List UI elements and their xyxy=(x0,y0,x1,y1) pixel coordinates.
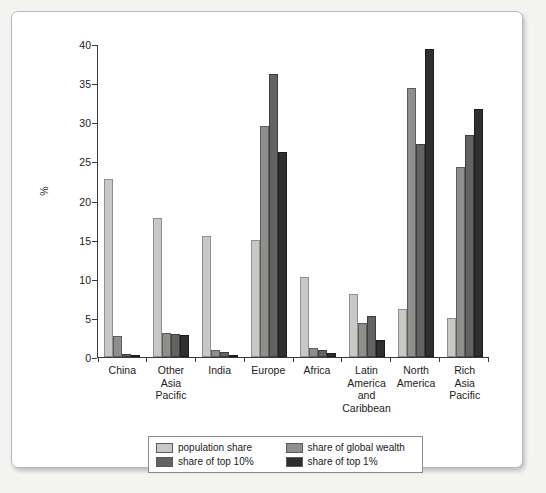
legend-label: share of top 10% xyxy=(178,456,254,467)
legend-swatch xyxy=(286,443,303,453)
x-axis-label: Other Asia Pacific xyxy=(147,364,196,426)
y-axis-tick-label: 5 xyxy=(51,313,91,325)
bar xyxy=(162,333,171,357)
bar-group xyxy=(147,45,196,357)
chart-page: % 0510152025303540 ChinaOther Asia Pacif… xyxy=(0,0,546,493)
x-axis-tick xyxy=(341,357,342,362)
bar xyxy=(367,316,376,357)
x-axis-labels: ChinaOther Asia PacificIndiaEuropeAfrica… xyxy=(98,364,489,426)
x-axis-label: Africa xyxy=(293,364,342,426)
bar xyxy=(447,318,456,357)
bar xyxy=(269,74,278,357)
y-axis-tick xyxy=(92,162,97,163)
plot-area: % 0510152025303540 xyxy=(97,45,489,358)
bar-group xyxy=(342,45,391,357)
bar-group xyxy=(245,45,294,357)
bar xyxy=(358,323,367,357)
y-axis-tick-label: 30 xyxy=(51,117,91,129)
bar-group xyxy=(294,45,343,357)
bar-group xyxy=(98,45,147,357)
bar xyxy=(122,354,131,357)
bar xyxy=(113,336,122,357)
bar xyxy=(456,167,465,357)
bar xyxy=(474,109,483,357)
bar xyxy=(131,355,140,357)
bar xyxy=(171,334,180,357)
x-axis-tick xyxy=(390,357,391,362)
x-axis-label: Latin America and Caribbean xyxy=(341,364,391,426)
x-axis-tick xyxy=(98,357,99,362)
bar xyxy=(251,240,260,357)
y-axis-tick-label: 15 xyxy=(51,235,91,247)
x-axis-tick xyxy=(146,357,147,362)
x-axis-label: China xyxy=(98,364,147,426)
bar xyxy=(300,277,309,357)
bar xyxy=(327,353,336,357)
legend-item: share of top 1% xyxy=(286,456,416,467)
bar xyxy=(229,355,238,357)
bar-groups xyxy=(98,45,489,357)
x-axis-label: North America xyxy=(392,364,441,426)
y-axis-tick-label: 25 xyxy=(51,156,91,168)
x-axis-tick xyxy=(244,357,245,362)
bar xyxy=(220,352,229,357)
chart-legend: population shareshare of global wealthsh… xyxy=(148,436,423,473)
x-axis-tick xyxy=(488,357,489,362)
bar xyxy=(376,340,385,357)
legend-swatch xyxy=(156,443,173,453)
bar xyxy=(211,350,220,357)
y-axis-tick-label: 10 xyxy=(51,274,91,286)
legend-swatch xyxy=(286,457,303,467)
bar xyxy=(407,88,416,357)
y-axis-tick xyxy=(92,84,97,85)
x-axis-tick xyxy=(293,357,294,362)
bar xyxy=(349,294,358,357)
y-axis-tick xyxy=(92,202,97,203)
legend-item: share of global wealth xyxy=(286,442,416,453)
y-axis-tick xyxy=(92,45,97,46)
bar xyxy=(104,179,113,357)
bar xyxy=(398,309,407,358)
bar xyxy=(425,49,434,357)
legend-item: population share xyxy=(156,442,286,453)
y-axis-tick-label: 0 xyxy=(51,352,91,364)
bar xyxy=(416,144,425,357)
y-axis-tick xyxy=(92,241,97,242)
bar xyxy=(309,348,318,357)
bar-group xyxy=(440,45,489,357)
bar xyxy=(465,135,474,357)
bar xyxy=(202,236,211,357)
legend-label: population share xyxy=(178,442,252,453)
legend-label: share of top 1% xyxy=(308,456,378,467)
bar xyxy=(180,335,189,357)
y-axis-tick-label: 35 xyxy=(51,78,91,90)
y-axis-tick-label: 20 xyxy=(51,196,91,208)
y-axis-tick xyxy=(92,280,97,281)
y-axis-tick xyxy=(92,319,97,320)
bar xyxy=(318,350,327,357)
bar xyxy=(260,126,269,357)
x-axis-tick xyxy=(195,357,196,362)
x-axis-label: Europe xyxy=(244,364,293,426)
chart-frame: % 0510152025303540 ChinaOther Asia Pacif… xyxy=(11,11,523,468)
y-axis-tick xyxy=(92,358,97,359)
x-axis-tick xyxy=(439,357,440,362)
bar-group xyxy=(196,45,245,357)
x-axis-label: Rich Asia Pacific xyxy=(440,364,489,426)
legend-label: share of global wealth xyxy=(308,442,405,453)
bar-group xyxy=(391,45,440,357)
bar xyxy=(153,218,162,357)
bar xyxy=(278,152,287,357)
y-axis-tick-label: 40 xyxy=(51,39,91,51)
legend-swatch xyxy=(156,457,173,467)
y-axis-title: % xyxy=(38,186,50,195)
x-axis-label: India xyxy=(195,364,244,426)
y-axis-tick xyxy=(92,123,97,124)
legend-item: share of top 10% xyxy=(156,456,286,467)
